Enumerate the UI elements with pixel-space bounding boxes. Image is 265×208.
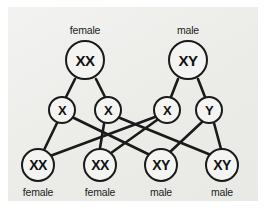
edge-sperm-y-to-child-3 — [170, 122, 202, 152]
edge-father-to-sperm-y — [198, 79, 205, 97]
offspring-node-child-4: XY — [205, 148, 239, 182]
edge-mother-to-egg-x2 — [96, 79, 105, 97]
edge-father-to-sperm-x — [171, 79, 178, 97]
gamete-node-egg-x2: X — [94, 96, 122, 124]
offspring-label-child-2: female — [85, 186, 115, 198]
parent-node-father: XY — [168, 40, 208, 80]
parent-label-mother: female — [70, 24, 100, 36]
offspring-node-child-3: XY — [144, 148, 178, 182]
offspring-label-child-1: female — [23, 186, 53, 198]
offspring-node-child-1: XX — [21, 148, 55, 182]
edge-egg-x1-to-child-1 — [44, 123, 57, 150]
gamete-node-sperm-x: X — [153, 96, 181, 124]
gamete-node-sperm-y: Y — [195, 96, 223, 124]
offspring-label-child-3: male — [150, 186, 172, 198]
gamete-node-egg-x1: X — [48, 96, 76, 124]
edge-mother-to-egg-x1 — [66, 79, 75, 97]
offspring-node-child-2: XX — [83, 148, 117, 182]
parent-label-father: male — [177, 24, 199, 36]
parent-node-mother: XX — [65, 40, 105, 80]
punnett-pedigree-figure: XXfemaleXYmaleXXXYXXfemaleXXfemaleXYmale… — [0, 0, 265, 208]
edge-sperm-y-to-child-4 — [214, 123, 221, 149]
offspring-label-child-4: male — [211, 186, 233, 198]
